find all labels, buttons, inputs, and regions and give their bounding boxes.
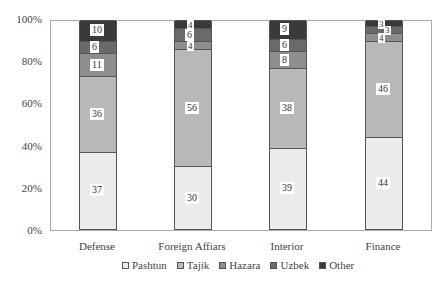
data-label: 37 [90,184,104,196]
data-label: 9 [280,23,289,35]
x-tick-label: Defense [42,240,152,252]
legend-item-uzbek: Uzbek [270,259,309,271]
data-label: 4 [187,41,194,51]
x-tick-label: Interior [232,240,342,252]
data-label: 6 [90,41,99,53]
legend: PashtunTajikHazaraUzbekOther [122,259,354,271]
legend-swatch-icon [177,262,184,269]
y-tick-label: 60% [0,97,42,109]
legend-label: Uzbek [280,259,309,271]
stacked-bar-chart: 0%20%40%60%80%100% 373611610305646439388… [0,0,448,286]
y-tick-label: 40% [0,140,42,152]
data-label: 11 [90,59,104,71]
data-label: 30 [185,192,199,204]
bar-defense: 373611610 [79,21,117,230]
y-tick-label: 20% [0,182,42,194]
legend-swatch-icon [270,262,277,269]
bar-finance: 4446433 [365,21,403,230]
data-label: 4 [187,20,194,30]
data-label: 36 [90,108,104,120]
bar-interior: 3938869 [269,21,307,230]
x-tick-label: Finance [328,240,438,252]
data-label: 39 [280,182,294,194]
x-tick-label: Foreign Affiars [137,240,247,252]
y-tick-label: 100% [0,13,42,25]
data-label: 46 [376,83,390,95]
data-label: 3 [384,25,391,35]
data-label: 10 [90,24,104,36]
legend-item-hazara: Hazara [219,259,260,271]
legend-swatch-icon [122,262,129,269]
legend-swatch-icon [219,262,226,269]
data-label: 6 [280,39,289,51]
y-tick-label: 80% [0,55,42,67]
y-tick-label: 0% [0,224,42,236]
data-label: 8 [280,54,289,66]
legend-label: Other [329,259,354,271]
plot-area: 373611610305646439388694446433 [50,20,432,231]
legend-item-tajik: Tajik [177,259,209,271]
legend-item-pashtun: Pashtun [122,259,167,271]
legend-label: Pashtun [132,259,167,271]
data-label: 3 [378,19,385,29]
legend-label: Hazara [229,259,260,271]
legend-swatch-icon [319,262,326,269]
data-label: 38 [280,102,294,114]
bar-foreign-affiars: 3056464 [174,21,212,230]
data-label: 6 [185,29,194,41]
data-label: 44 [376,177,390,189]
legend-item-other: Other [319,259,354,271]
legend-label: Tajik [187,259,209,271]
data-label: 56 [185,102,199,114]
